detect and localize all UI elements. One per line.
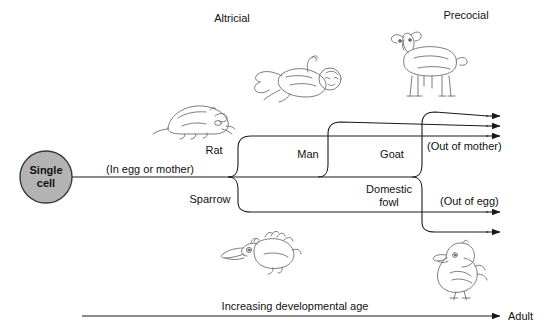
axis-end-label-adult: Adult <box>508 310 533 323</box>
stage-label-out-of-mother: (Out of mother) <box>427 140 502 153</box>
developmental-age-diagram: Altricial Precocial Single cell (In egg … <box>0 0 554 334</box>
domestic-fowl-chick-sketch <box>420 238 490 300</box>
heading-altricial: Altricial <box>214 12 249 25</box>
species-label-goat: Goat <box>380 148 404 161</box>
domestic-fowl-line1: Domestic <box>366 183 412 195</box>
goat-kid-sketch <box>388 26 470 102</box>
species-label-rat: Rat <box>205 144 222 157</box>
species-label-sparrow: Sparrow <box>190 193 231 206</box>
species-label-domestic-fowl: Domestic fowl <box>366 183 412 208</box>
stage-label-out-of-egg: (Out of egg) <box>440 195 499 208</box>
species-label-man: Man <box>297 148 318 161</box>
single-cell-circle <box>20 151 72 203</box>
newborn-rat-pup-sketch <box>152 96 238 142</box>
axis-caption: Increasing developmental age <box>222 300 369 313</box>
human-infant-sketch <box>246 52 346 104</box>
heading-precocial: Precocial <box>443 9 488 22</box>
sparrow-hatchling-sketch <box>218 228 302 276</box>
domestic-fowl-line2: fowl <box>379 196 399 208</box>
stage-label-in-egg-or-mother: (In egg or mother) <box>106 163 194 176</box>
